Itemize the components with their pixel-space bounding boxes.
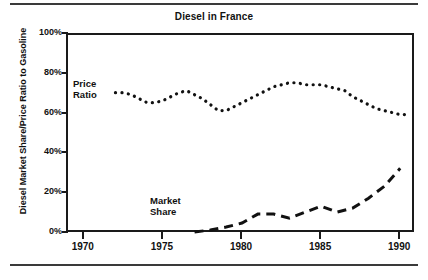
y-tick-label-0: 0% (22, 226, 62, 236)
market-share-annotation: Market Share (150, 195, 181, 217)
market-share-series (195, 168, 401, 232)
price-ratio-series (115, 83, 408, 115)
price-ratio-annotation-line2: Ratio (73, 89, 97, 100)
x-tick-mark-1985 (319, 232, 321, 239)
x-tick-label-1970: 1970 (55, 241, 111, 252)
x-tick-label-1980: 1980 (213, 241, 269, 252)
x-tick-label-1975: 1975 (134, 241, 190, 252)
price-ratio-annotation-line1: Price (73, 78, 97, 89)
top-rule (10, 3, 418, 5)
x-tick-mark-1975 (161, 232, 163, 239)
series-canvas (68, 35, 416, 234)
x-tick-mark-1970 (82, 232, 84, 239)
price-ratio-annotation: Price Ratio (73, 78, 97, 100)
y-tick-label-100: 100% (22, 27, 62, 37)
x-tick-mark-1990 (398, 232, 400, 239)
x-tick-mark-1980 (240, 232, 242, 239)
x-tick-label-1990: 1990 (371, 241, 427, 252)
y-axis-ticks: 100% 80% 60% 40% 20% 0% (18, 33, 62, 232)
chart-title: Diesel in France (0, 11, 428, 22)
plot-area (66, 33, 414, 232)
y-tick-label-80: 80% (22, 67, 62, 77)
y-tick-label-60: 60% (22, 107, 62, 117)
x-axis-ticks: 1970 1975 1980 1985 1990 (66, 232, 414, 262)
chart-figure: Diesel in France Diesel Market Share/Pri… (0, 0, 428, 280)
y-tick-label-40: 40% (22, 146, 62, 156)
market-share-annotation-line2: Share (150, 206, 181, 217)
y-tick-label-20: 20% (22, 186, 62, 196)
market-share-annotation-line1: Market (150, 195, 181, 206)
x-tick-label-1985: 1985 (292, 241, 348, 252)
bottom-rule (10, 264, 418, 266)
